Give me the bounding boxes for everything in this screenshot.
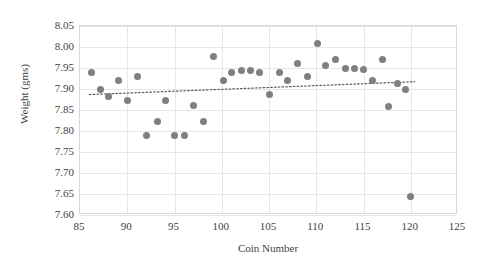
data-point xyxy=(332,56,339,63)
x-tick-label: 125 xyxy=(442,221,472,232)
data-point xyxy=(105,93,112,100)
data-point xyxy=(385,103,392,110)
y-tick-label: 8.00 xyxy=(40,41,74,52)
data-point xyxy=(210,53,217,60)
y-tick-label: 7.60 xyxy=(40,209,74,220)
data-point xyxy=(88,69,95,76)
data-point xyxy=(124,97,131,104)
data-point xyxy=(314,40,321,47)
data-point xyxy=(256,69,263,76)
x-tick-label: 110 xyxy=(300,221,330,232)
y-tick-label: 7.75 xyxy=(40,146,74,157)
data-point xyxy=(97,86,104,93)
y-tick-label: 7.70 xyxy=(40,167,74,178)
y-tick-label: 7.95 xyxy=(40,62,74,73)
x-tick-label: 95 xyxy=(159,221,189,232)
x-tick-label: 85 xyxy=(64,221,94,232)
x-tick-label: 105 xyxy=(253,221,283,232)
data-point xyxy=(342,65,349,72)
y-tick-label: 7.90 xyxy=(40,83,74,94)
data-point xyxy=(407,193,414,200)
scatter-chart-figure: 8.058.007.957.907.857.807.757.707.657.60… xyxy=(0,0,490,276)
data-point xyxy=(402,86,409,93)
plot-area xyxy=(79,25,457,214)
trendline xyxy=(80,26,456,213)
gridline-horizontal xyxy=(80,215,456,216)
y-tick-label: 7.80 xyxy=(40,125,74,136)
y-tick-label: 8.05 xyxy=(40,20,74,31)
data-point xyxy=(276,69,283,76)
x-tick-label: 120 xyxy=(395,221,425,232)
data-point xyxy=(171,132,178,139)
data-point xyxy=(266,91,273,98)
x-tick-label: 100 xyxy=(206,221,236,232)
data-point xyxy=(134,73,141,80)
data-point xyxy=(228,69,235,76)
data-point xyxy=(143,132,150,139)
data-point xyxy=(379,56,386,63)
x-axis-tick-labels: 859095100105110115120125 xyxy=(0,221,490,237)
x-tick-label: 115 xyxy=(348,221,378,232)
y-tick-label: 7.85 xyxy=(40,104,74,115)
x-tick-label: 90 xyxy=(111,221,141,232)
y-axis-title: Weight (gms) xyxy=(18,34,30,154)
y-tick-label: 7.65 xyxy=(40,188,74,199)
x-axis-title: Coin Number xyxy=(79,242,457,254)
